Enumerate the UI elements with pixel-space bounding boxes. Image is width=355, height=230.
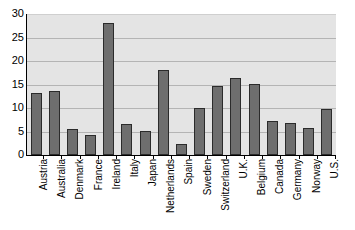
bar-series <box>27 14 336 155</box>
bar[interactable] <box>85 135 96 155</box>
plot-area <box>26 14 336 156</box>
bar[interactable] <box>31 93 42 155</box>
x-label-slot: Spain <box>171 159 189 227</box>
bar-slot <box>191 14 209 155</box>
x-label-slot: Japan <box>135 159 153 227</box>
x-label-slot: U.S. <box>317 159 335 227</box>
bar[interactable] <box>176 144 187 155</box>
x-label-slot: France <box>81 159 99 227</box>
x-label-slot: Netherlands <box>153 159 171 227</box>
y-tick-label: 20 <box>0 55 24 66</box>
y-tick-label: 25 <box>0 32 24 43</box>
y-tick-label: 5 <box>0 126 24 137</box>
x-label-slot: Belgium <box>244 159 262 227</box>
x-label-slot: Germany <box>280 159 298 227</box>
x-label-slot: Australia <box>44 159 62 227</box>
x-label-slot: Switzerland <box>208 159 226 227</box>
bar[interactable] <box>103 23 114 155</box>
x-label-slot: Norway <box>299 159 317 227</box>
y-axis: 051015202530 <box>0 14 24 155</box>
bar[interactable] <box>303 128 314 155</box>
x-label-slot: U.K. <box>226 159 244 227</box>
bar-slot <box>63 14 81 155</box>
bar[interactable] <box>230 78 241 155</box>
bar[interactable] <box>321 109 332 155</box>
x-label-slot: Austria <box>26 159 44 227</box>
bar-slot <box>82 14 100 155</box>
bar-slot <box>318 14 336 155</box>
x-tick-label: U.S. <box>330 159 340 178</box>
x-label-slot: Canada <box>262 159 280 227</box>
bar[interactable] <box>249 84 260 155</box>
bar-slot <box>245 14 263 155</box>
y-tick-label: 10 <box>0 102 24 113</box>
bar-slot <box>118 14 136 155</box>
bar[interactable] <box>194 108 205 155</box>
bar[interactable] <box>49 91 60 155</box>
bar[interactable] <box>267 121 278 155</box>
bar-slot <box>281 14 299 155</box>
bar-slot <box>227 14 245 155</box>
bar[interactable] <box>158 70 169 155</box>
x-axis: AustriaAustraliaDenmarkFranceIrelandItal… <box>26 159 335 227</box>
bar[interactable] <box>121 124 132 155</box>
bar-slot <box>100 14 118 155</box>
x-label-slot: Ireland <box>99 159 117 227</box>
bar-slot <box>154 14 172 155</box>
bar[interactable] <box>212 86 223 155</box>
bar-slot <box>172 14 190 155</box>
x-label-slot: Sweden <box>190 159 208 227</box>
bar-slot <box>300 14 318 155</box>
bar-slot <box>27 14 45 155</box>
bar[interactable] <box>285 123 296 155</box>
bar[interactable] <box>140 131 151 155</box>
bar-chart: 051015202530 AustriaAustraliaDenmarkFran… <box>0 0 355 230</box>
bar-slot <box>45 14 63 155</box>
x-label-slot: Denmark <box>62 159 80 227</box>
bar[interactable] <box>67 129 78 155</box>
y-tick-label: 15 <box>0 79 24 90</box>
bar-slot <box>136 14 154 155</box>
bar-slot <box>263 14 281 155</box>
y-tick-label: 0 <box>0 149 24 160</box>
x-label-slot: Italy <box>117 159 135 227</box>
bar-slot <box>209 14 227 155</box>
y-tick-label: 30 <box>0 8 24 19</box>
